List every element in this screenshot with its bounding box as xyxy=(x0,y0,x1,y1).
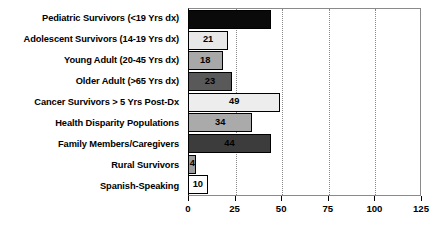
category-label: Health Disparity Populations xyxy=(0,112,184,133)
category-label: Adolescent Survivors (14-19 Yrs dx) xyxy=(0,29,184,50)
x-axis: 0255075100125 xyxy=(188,196,421,222)
bar[interactable]: 49 xyxy=(188,93,280,112)
bar-value-label: 49 xyxy=(229,97,239,106)
x-tick-label: 75 xyxy=(322,203,333,214)
bar[interactable]: 10 xyxy=(188,175,208,194)
x-tick-mark xyxy=(328,196,329,201)
bar-row: 4 xyxy=(189,154,420,175)
category-label: Family Members/Caregivers xyxy=(0,133,184,154)
bar[interactable]: 44 xyxy=(188,134,271,153)
x-tick-label: 25 xyxy=(229,203,240,214)
category-label: Spanish-Speaking xyxy=(0,175,184,196)
category-label: Rural Survivors xyxy=(0,154,184,175)
bar-row: 23 xyxy=(189,71,420,92)
bar[interactable] xyxy=(188,10,271,29)
bar-value-label: 21 xyxy=(203,35,213,44)
category-label: Pediatric Survivors (<19 Yrs dx) xyxy=(0,8,184,29)
bar-row: 44 xyxy=(189,133,420,154)
bar[interactable]: 21 xyxy=(188,31,228,50)
x-tick-label: 100 xyxy=(366,203,382,214)
bar-row: 49 xyxy=(189,92,420,113)
bar-chart: Pediatric Survivors (<19 Yrs dx)Adolesce… xyxy=(0,0,440,229)
x-tick-mark xyxy=(421,196,422,201)
bar-value-label: 23 xyxy=(205,77,215,86)
category-label: Cancer Survivors > 5 Yrs Post-Dx xyxy=(0,92,184,113)
bar-row: 21 xyxy=(189,30,420,51)
bar-value-label: 10 xyxy=(193,180,203,189)
plot-area: 211823493444410 xyxy=(188,8,421,196)
bar[interactable]: 18 xyxy=(188,51,223,70)
bar-value-label: 4 xyxy=(190,159,195,168)
category-axis: Pediatric Survivors (<19 Yrs dx)Adolesce… xyxy=(0,8,184,196)
bar-value-label: 34 xyxy=(215,118,225,127)
category-label: Young Adult (20-45 Yrs dx) xyxy=(0,50,184,71)
bar-value-label: 44 xyxy=(224,139,234,148)
bar[interactable]: 23 xyxy=(188,72,232,91)
bar-row xyxy=(189,9,420,30)
x-tick-label: 50 xyxy=(276,203,287,214)
bars-layer: 211823493444410 xyxy=(189,9,420,195)
bar[interactable]: 34 xyxy=(188,113,252,132)
bar[interactable]: 4 xyxy=(188,155,196,174)
x-tick-mark xyxy=(235,196,236,201)
bar-row: 34 xyxy=(189,112,420,133)
x-tick-label: 0 xyxy=(185,203,190,214)
bar-value-label: 18 xyxy=(200,56,210,65)
bar-row: 18 xyxy=(189,50,420,71)
x-tick-label: 125 xyxy=(413,203,429,214)
bar-row: 10 xyxy=(189,174,420,195)
x-tick-mark xyxy=(188,196,189,201)
x-tick-mark xyxy=(374,196,375,201)
x-tick-mark xyxy=(281,196,282,201)
category-label: Older Adult (>65 Yrs dx) xyxy=(0,71,184,92)
